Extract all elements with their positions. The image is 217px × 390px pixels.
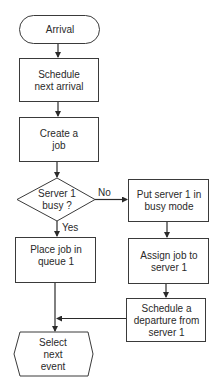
schedule-next-arrival-label: Schedule next arrival bbox=[30, 59, 88, 102]
place-job-queue-label: Place job in queue 1 bbox=[20, 238, 92, 274]
edge-label-no: No bbox=[98, 187, 111, 199]
put-server-busy-label: Put server 1 in busy mode bbox=[131, 180, 207, 222]
select-next-event-label: Select next event bbox=[33, 333, 73, 376]
create-job-label: Create a job bbox=[34, 118, 84, 162]
arrival-label: Arrival bbox=[20, 16, 100, 44]
server-busy-label: Server 1 busy ? bbox=[34, 181, 80, 219]
edge-label-yes: Yes bbox=[62, 222, 78, 234]
assign-job-label: Assign job to server 1 bbox=[138, 239, 200, 284]
schedule-departure-label: Schedule a departure from server 1 bbox=[128, 299, 205, 342]
